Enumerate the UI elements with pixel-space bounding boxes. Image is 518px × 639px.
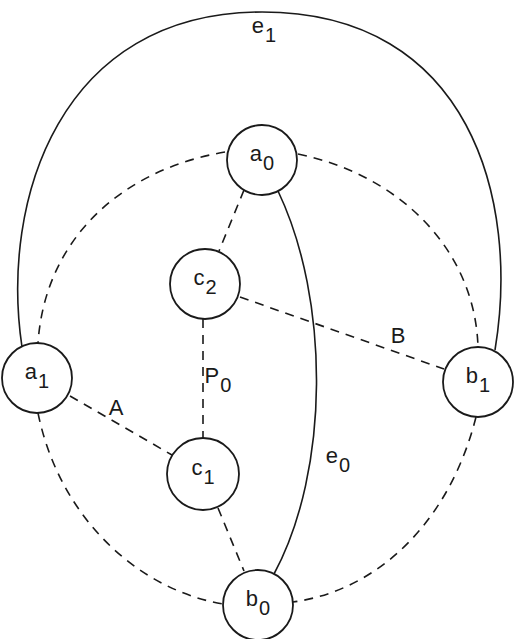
edge-label-p0: P0 bbox=[205, 365, 232, 395]
node-label-b1: b1 bbox=[466, 365, 490, 395]
edge-label-e0: e0 bbox=[326, 445, 350, 475]
graph-canvas bbox=[0, 0, 518, 639]
edge-c1-b0 bbox=[218, 508, 244, 571]
edge-c2-b1 bbox=[240, 297, 444, 369]
node-label-a0: a0 bbox=[250, 143, 274, 173]
node-label-a1: a1 bbox=[25, 361, 49, 391]
graph-diagram: a0 c2 a1 b1 c1 b0 e1 e0 P0 A B bbox=[0, 0, 518, 639]
edge-label-b: B bbox=[391, 325, 406, 347]
edge-a0-c2 bbox=[219, 190, 244, 251]
node-label-b0: b0 bbox=[246, 588, 270, 618]
edge-label-a: A bbox=[109, 397, 124, 419]
edge-b1-b0 bbox=[293, 417, 476, 602]
edge-a0-b1 bbox=[298, 154, 478, 347]
node-label-c1: c1 bbox=[191, 457, 214, 487]
edge-label-e1: e1 bbox=[252, 15, 276, 45]
node-label-c2: c2 bbox=[193, 267, 216, 297]
edge-e0 bbox=[274, 191, 317, 574]
